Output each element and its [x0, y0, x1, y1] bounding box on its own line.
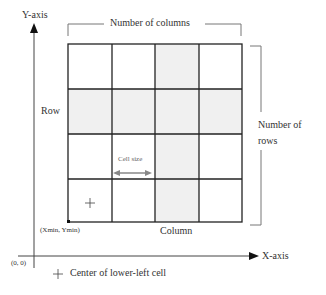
arrow-right-icon — [145, 170, 152, 176]
min-corner-label: (Xmin, Ymin) — [40, 226, 80, 234]
x-axis-label: X-axis — [262, 250, 289, 261]
number-of-columns-label: Number of columns — [110, 17, 190, 28]
cell-size-arrow — [113, 170, 152, 176]
column-label: Column — [160, 225, 192, 236]
cell-size-label: Cell size — [118, 155, 142, 163]
x-axis — [18, 252, 259, 260]
number-of-rows-label-line1: Number of — [258, 119, 302, 130]
legend-plus-icon — [53, 269, 63, 279]
y-axis — [30, 23, 38, 268]
raster-grid-diagram: Y-axis X-axis (0, 0) Number of columns N… — [0, 0, 326, 295]
number-of-rows-label-line2: rows — [258, 135, 277, 146]
center-marker-icon — [85, 198, 95, 208]
arrow-left-icon — [113, 170, 120, 176]
y-axis-label: Y-axis — [22, 9, 48, 20]
row-label: Row — [41, 105, 60, 116]
min-corner-marker — [67, 220, 70, 223]
x-axis-arrow-icon — [249, 252, 259, 260]
y-axis-arrow-icon — [30, 23, 38, 33]
origin-label: (0, 0) — [11, 259, 26, 267]
legend-text: Center of lower-left cell — [70, 267, 166, 278]
